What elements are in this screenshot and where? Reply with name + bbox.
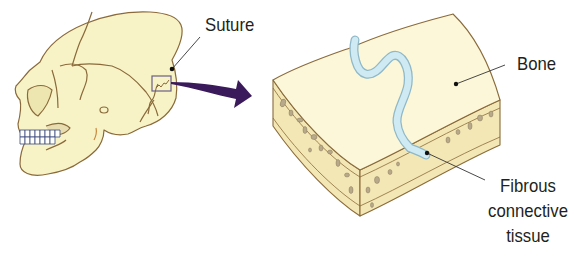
- skull: [15, 12, 182, 175]
- suture-label: Suture: [205, 14, 254, 36]
- fibrous-label-line1: Fibrous: [493, 175, 563, 197]
- bone-label: Bone: [517, 53, 556, 75]
- suture-diagram: Suture Bone Fibrous connective tissue: [0, 0, 579, 268]
- fibrous-label-line3: tissue: [493, 225, 563, 247]
- fibrous-label-line2: connective: [484, 200, 572, 222]
- magnify-arrow: [171, 80, 252, 108]
- bone-section: [273, 14, 500, 216]
